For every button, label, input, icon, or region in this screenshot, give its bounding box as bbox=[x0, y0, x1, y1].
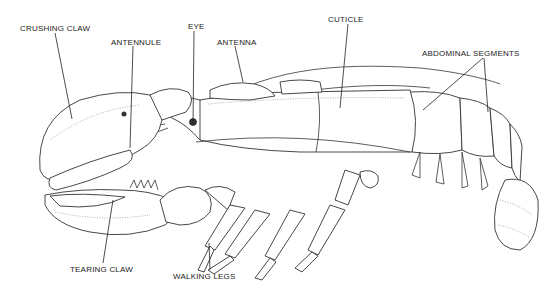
crushing-claw-leader bbox=[55, 33, 72, 119]
label-tearing-claw: TEARING CLAW bbox=[70, 265, 133, 274]
abdominal-segments-leader-2 bbox=[484, 58, 488, 112]
lobster-illustration bbox=[0, 0, 556, 297]
label-cuticle: CUTICLE bbox=[328, 15, 364, 24]
antenna-leader bbox=[235, 46, 243, 82]
label-antennule: ANTENNULE bbox=[111, 38, 161, 47]
label-abdominal-segments: ABDOMINAL SEGMENTS bbox=[422, 49, 520, 58]
label-walking-legs: WALKING LEGS bbox=[173, 272, 236, 281]
lobster-anatomy-diagram: CRUSHING CLAW ANTENNULE EYE ANTENNA CUTI… bbox=[0, 0, 556, 297]
label-eye: EYE bbox=[188, 22, 205, 31]
label-crushing-claw: CRUSHING CLAW bbox=[20, 24, 90, 33]
label-antenna: ANTENNA bbox=[217, 38, 257, 47]
